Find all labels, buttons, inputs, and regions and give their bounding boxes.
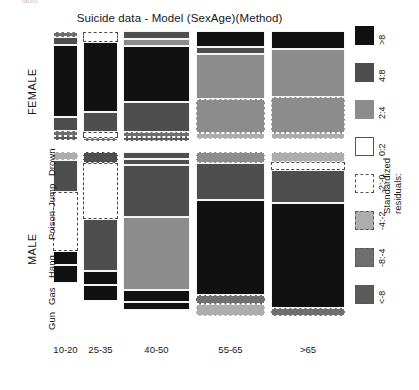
cropped-header-text: iaoro: [22, 0, 38, 4]
y-axis-method-label: Gas: [46, 288, 57, 305]
mosaic-tile: [123, 39, 190, 46]
mosaic-tile: [83, 152, 118, 163]
mosaic-tile: [271, 152, 345, 162]
legend-label: >8: [377, 35, 387, 45]
legend-item: >8: [355, 26, 395, 45]
mosaic-tile: [83, 285, 118, 301]
mosaic-tile: [196, 152, 265, 163]
legend-label: -4:-2: [377, 211, 387, 230]
mosaic-tile: [83, 138, 118, 141]
legend-title: Standardized residuals:: [381, 158, 403, 214]
legend-swatch: [355, 63, 374, 82]
x-axis-label: >65: [271, 344, 345, 355]
mosaic-tile: [271, 162, 345, 170]
mosaic-tile: [196, 99, 265, 133]
x-axis-label: 10-20: [53, 344, 78, 355]
mosaic-tile: [271, 97, 345, 133]
mosaic-tile: [123, 152, 190, 159]
mosaic-tile: [83, 219, 118, 271]
mosaic-tile: [196, 304, 265, 316]
mosaic-tile: [83, 42, 118, 112]
legend-item: 0:2: [355, 137, 395, 156]
mosaic-tile: [271, 308, 345, 316]
legend-title-line1: Standardized: [381, 158, 392, 214]
mosaic-tile: [83, 271, 118, 285]
mosaic-tile: [53, 45, 78, 117]
legend-item: 4:8: [355, 63, 395, 82]
legend-swatch: [355, 137, 374, 156]
mosaic-tile: [196, 200, 265, 295]
y-axis-method-label: Jump: [46, 184, 57, 207]
mosaic-tile: [123, 165, 190, 217]
legend-title-line2: residuals:: [392, 158, 403, 214]
y-axis-method-label: Hang: [46, 255, 57, 278]
mosaic-tile: [271, 133, 345, 139]
mosaic-tile: [123, 137, 190, 141]
x-axis-label: 25-35: [83, 344, 118, 355]
mosaic-tile: [53, 37, 78, 45]
legend-label: 2:4: [377, 106, 387, 119]
legend-swatch: [355, 285, 374, 304]
mosaic-tile: [123, 46, 190, 102]
mosaic-tile: [196, 31, 265, 47]
mosaic-tile: [123, 290, 190, 302]
legend-item: -8:-4: [355, 248, 395, 267]
mosaic-tile: [271, 31, 345, 49]
y-axis-method-label: Poison: [46, 211, 57, 240]
mosaic-tile: [83, 112, 118, 132]
mosaic-tile: [83, 32, 118, 42]
mosaic-tile: [196, 295, 265, 304]
chart-title: Suicide data - Model (SexAge)(Method): [0, 12, 359, 24]
legend-label: -8:-4: [377, 248, 387, 267]
mosaic-tile: [271, 49, 345, 97]
legend-label: 0:2: [377, 143, 387, 156]
mosaic-tile: [271, 203, 345, 308]
y-axis-sex-label: MALE: [26, 233, 38, 265]
legend-item: 2:4: [355, 100, 395, 119]
mosaic-tile: [123, 217, 190, 290]
mosaic-tile: [123, 31, 190, 39]
mosaic-tile: [196, 133, 265, 139]
mosaic-tile: [271, 170, 345, 203]
mosaic-tile: [123, 102, 190, 132]
y-axis-method-label: Gun: [46, 312, 57, 330]
legend-swatch: [355, 26, 374, 45]
mosaic-tile: [123, 302, 190, 310]
y-axis-method-label: Drown: [46, 149, 57, 176]
mosaic-plot: iaoro Suicide data - Model (SexAge)(Meth…: [0, 0, 419, 390]
mosaic-tile: [83, 163, 118, 219]
legend-item: <-8: [355, 285, 395, 304]
legend-label: 4:8: [377, 69, 387, 82]
mosaic-tile: [53, 117, 78, 131]
legend-swatch: [355, 100, 374, 119]
x-axis-label: 55-65: [196, 344, 265, 355]
legend-swatch: [355, 211, 374, 230]
mosaic-tile: [53, 136, 78, 140]
y-axis-sex-label: FEMALE: [26, 69, 38, 115]
legend-swatch: [355, 174, 374, 193]
mosaic-tile: [196, 163, 265, 200]
mosaic-tile: [196, 54, 265, 99]
x-axis-label: 40-50: [123, 344, 190, 355]
legend-swatch: [355, 248, 374, 267]
legend-label: <-8: [377, 291, 387, 304]
mosaic-tile: [196, 47, 265, 54]
